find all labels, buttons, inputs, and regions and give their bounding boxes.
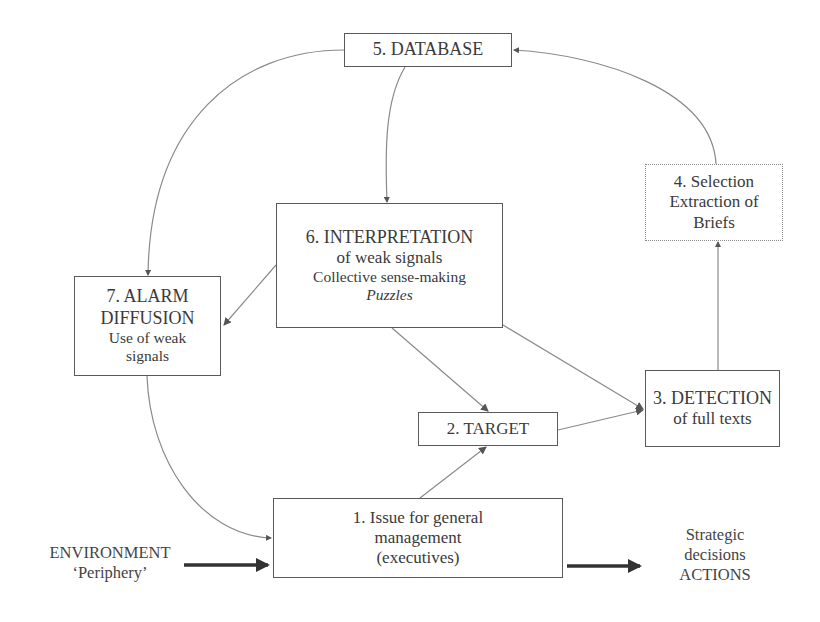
node-interpretation-subtitle: of weak signals: [337, 248, 443, 268]
node-detection-subtitle: of full texts: [673, 409, 751, 429]
node-interpretation-title: 6. INTERPRETATION: [306, 227, 474, 248]
environment-title: ENVIRONMENT: [20, 543, 200, 563]
arrow-interpretation-to-target: [392, 328, 488, 411]
node-alarm-line: Use of weak: [109, 329, 186, 347]
arrow-interpretation-to-detection: [503, 325, 643, 409]
arrow-database-to-interpretation: [386, 67, 405, 202]
node-issue-line: management: [375, 528, 462, 548]
node-detection-title: 3. DETECTION: [653, 388, 772, 409]
node-alarm-line: signals: [126, 347, 169, 365]
node-interpretation-detail: Collective sense-making: [313, 268, 466, 286]
actions-line: Strategic: [660, 525, 770, 545]
node-database: 5. DATABASE: [344, 33, 512, 67]
node-database-title: 5. DATABASE: [373, 39, 484, 60]
actions-line: ACTIONS: [660, 565, 770, 585]
node-selection: 4. Selection Extraction of Briefs: [645, 164, 783, 241]
node-target-title: 2. TARGET: [447, 419, 529, 439]
node-issue-line: (executives): [376, 548, 459, 568]
actions-line: decisions: [660, 545, 770, 565]
node-interpretation: 6. INTERPRETATION of weak signals Collec…: [276, 203, 503, 328]
node-alarm-diffusion: 7. ALARM DIFFUSION Use of weak signals: [74, 276, 221, 376]
arrow-interpretation-to-alarm: [224, 265, 276, 325]
node-interpretation-emphasis: Puzzles: [366, 286, 413, 304]
arrow-target-to-detection: [558, 410, 643, 430]
periphery-label: ‘Periphery’: [20, 563, 200, 583]
node-alarm-line: 7. ALARM: [106, 286, 188, 307]
node-alarm-line: DIFFUSION: [100, 308, 194, 329]
environment-label: ENVIRONMENT ‘Periphery’: [20, 543, 200, 583]
node-selection-line: Briefs: [693, 213, 735, 233]
arrow-issue-to-target: [420, 447, 486, 498]
node-selection-line: Extraction of: [669, 192, 758, 212]
arrow-alarm-to-issue: [147, 376, 271, 538]
node-detection: 3. DETECTION of full texts: [645, 370, 780, 447]
node-issue-line: 1. Issue for general: [353, 508, 483, 528]
node-selection-line: 4. Selection: [674, 172, 754, 192]
node-target: 2. TARGET: [418, 412, 558, 446]
actions-label: Strategic decisions ACTIONS: [660, 525, 770, 584]
arrow-selection-to-database: [514, 50, 716, 164]
node-issue: 1. Issue for general management (executi…: [273, 498, 563, 578]
